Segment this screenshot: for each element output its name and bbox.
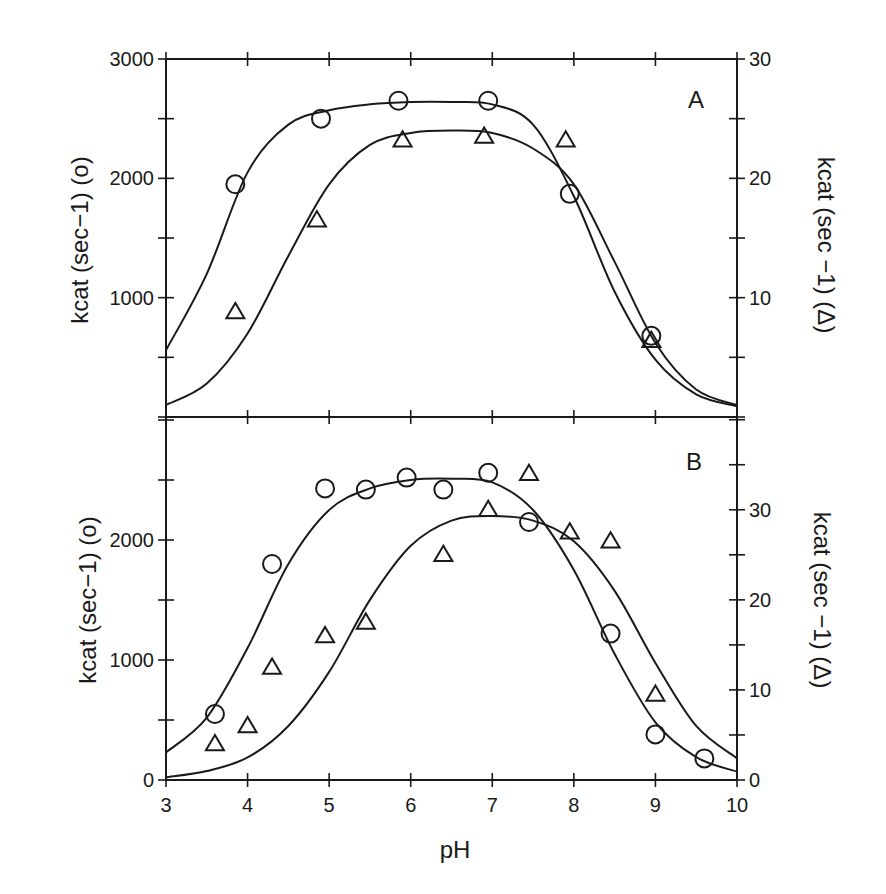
triangle-marker <box>602 532 620 547</box>
right-y-tick-label: 0 <box>749 769 760 791</box>
x-tick-label: 6 <box>405 794 416 816</box>
left-y-tick-label: 3000 <box>110 48 155 70</box>
panel-b-left-axis-label: kcat (sec−1) (o) <box>74 516 101 683</box>
right-y-tick-label: 10 <box>749 679 771 701</box>
right-y-tick-label: 20 <box>749 167 771 189</box>
triangle-marker <box>206 735 224 750</box>
left-y-tick-label: 0 <box>143 769 154 791</box>
x-tick-label: 7 <box>487 794 498 816</box>
triangle-fit-curve <box>166 516 737 777</box>
triangle-marker <box>646 685 664 700</box>
left-y-tick-label: 1000 <box>110 287 155 309</box>
circle-marker <box>479 92 497 110</box>
chart-figure: 100020003000102030 0100020000102030 3456… <box>0 0 886 894</box>
right-y-tick-label: 30 <box>749 499 771 521</box>
triangle-marker <box>239 717 257 732</box>
left-y-tick-label: 1000 <box>110 649 155 671</box>
circle-marker <box>389 92 407 110</box>
triangle-marker <box>561 523 579 538</box>
circle-marker <box>434 481 452 499</box>
triangle-fit-curve <box>166 131 737 406</box>
right-y-tick-label: 30 <box>749 48 771 70</box>
left-y-tick-label: 2000 <box>110 529 155 551</box>
panel-b: 0100020000102030 <box>110 420 772 791</box>
triangle-marker <box>475 128 493 143</box>
triangle-marker <box>557 131 575 146</box>
circle-marker <box>263 555 281 573</box>
x-tick-label: 4 <box>242 794 253 816</box>
panel-a-left-axis-label: kcat (sec−1) (o) <box>66 156 93 323</box>
circle-marker <box>479 464 497 482</box>
panel-a-label: A <box>688 86 704 113</box>
triangle-marker <box>263 658 281 673</box>
x-tick-label: 9 <box>650 794 661 816</box>
x-tick-label: 3 <box>160 794 171 816</box>
triangle-marker <box>226 303 244 318</box>
triangle-marker <box>434 546 452 561</box>
panel-a: 100020003000102030 <box>110 48 772 417</box>
triangle-marker <box>479 501 497 516</box>
circle-marker <box>316 479 334 497</box>
triangle-marker <box>316 627 334 642</box>
right-y-tick-label: 20 <box>749 589 771 611</box>
x-tick-label: 10 <box>726 794 748 816</box>
right-y-tick-label: 10 <box>749 287 771 309</box>
panel-a-right-axis-label: kcat (sec −1) (Δ) <box>813 157 840 334</box>
circle-fit-curve <box>166 479 737 772</box>
left-y-tick-label: 2000 <box>110 167 155 189</box>
panel-b-right-axis-label: kcat (sec −1) (Δ) <box>809 512 836 689</box>
circle-fit-curve <box>166 102 737 407</box>
panel-b-label: B <box>686 448 702 475</box>
triangle-marker <box>520 465 538 480</box>
x-tick-label: 8 <box>568 794 579 816</box>
circle-marker <box>646 725 664 743</box>
circle-marker <box>398 469 416 487</box>
x-axis-label: pH <box>440 836 471 863</box>
x-tick-label: 5 <box>324 794 335 816</box>
